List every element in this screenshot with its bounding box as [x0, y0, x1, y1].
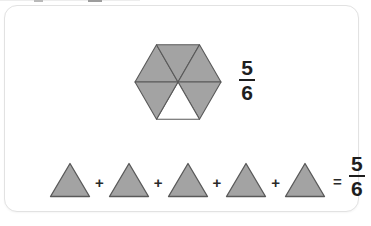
hexagon-fraction-group: 5 6 — [133, 42, 283, 126]
fraction-five-sixths: 5 6 — [239, 57, 255, 103]
plus-operator-4: + — [267, 175, 284, 202]
triangle-icon — [108, 162, 150, 198]
result-numerator: 5 — [349, 153, 365, 175]
top-edge-artifact — [0, 0, 371, 4]
equation-term-2 — [108, 154, 150, 202]
artifact-mark-right — [88, 0, 102, 2]
lesson-card: 5 6 + + + — [4, 5, 359, 212]
artifact-mark-left — [34, 0, 43, 2]
triangle-icon — [284, 162, 326, 198]
equation-term-3 — [167, 154, 209, 202]
hexagon-fraction-label: 5 6 — [230, 57, 264, 104]
plus-operator-3: + — [209, 175, 226, 202]
equation-term-1 — [49, 154, 91, 202]
plus-operator-2: + — [150, 175, 167, 202]
result-denominator: 6 — [349, 177, 365, 199]
triangle-icon — [49, 162, 91, 198]
hexagon-six-triangles — [133, 42, 223, 122]
triangle-icon — [167, 162, 209, 198]
artifact-line — [0, 0, 140, 1]
fraction-numerator: 5 — [239, 57, 255, 79]
equation-result-fraction: 5 6 — [349, 153, 365, 202]
fraction-denominator: 6 — [239, 81, 255, 103]
triangle-icon — [225, 162, 267, 198]
equation-row: + + + + = 5 6 — [49, 154, 349, 202]
equation-term-4 — [225, 154, 267, 202]
equation-term-5 — [284, 154, 326, 202]
plus-operator-1: + — [91, 175, 108, 202]
equals-operator: = — [326, 174, 349, 202]
